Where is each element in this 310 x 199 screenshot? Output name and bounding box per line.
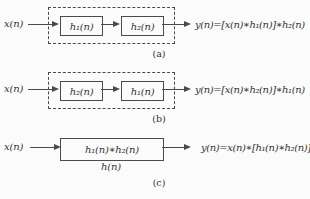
input-signal-label: x(n): [4, 83, 23, 95]
input-signal-label: x(n): [4, 141, 23, 153]
output-arrow-line: [162, 147, 185, 148]
output-equation: y(n)=x(n)∗[h₁(n)∗h₂(n)]: [201, 142, 310, 154]
output-arrow-line: [162, 24, 185, 25]
figure-cascade-systems: x(n) h₁(n) h₂(n) y(n)=[x(n)∗h₁(n)]∗h₂(n)…: [0, 0, 310, 199]
impulse-response-label: h(n): [60, 161, 162, 173]
output-arrowhead-icon: [184, 21, 191, 27]
inter-block-arrowhead-icon: [113, 21, 120, 27]
input-signal-label: x(n): [4, 18, 23, 30]
output-arrowhead-icon: [184, 144, 191, 150]
inter-block-arrowhead-icon: [113, 86, 120, 92]
output-equation: y(n)=[x(n)∗h₁(n)]∗h₂(n): [195, 19, 305, 31]
lti-block-2: h₂(n): [121, 16, 164, 36]
output-arrowhead-icon: [184, 86, 191, 92]
lti-block-1: h₂(n): [60, 81, 103, 101]
subfigure-caption: (b): [150, 113, 168, 125]
input-arrow-line: [30, 147, 55, 148]
output-arrow-line: [162, 89, 185, 90]
subfigure-caption: (c): [150, 177, 168, 189]
lti-block-1: h₁(n): [60, 16, 103, 36]
subfigure-caption: (a): [150, 48, 168, 60]
combined-lti-block: h₁(n)∗h₂(n): [60, 138, 164, 161]
lti-block-2: h₁(n): [121, 81, 164, 101]
output-equation: y(n)=[x(n)∗h₂(n)]∗h₁(n): [195, 84, 305, 96]
